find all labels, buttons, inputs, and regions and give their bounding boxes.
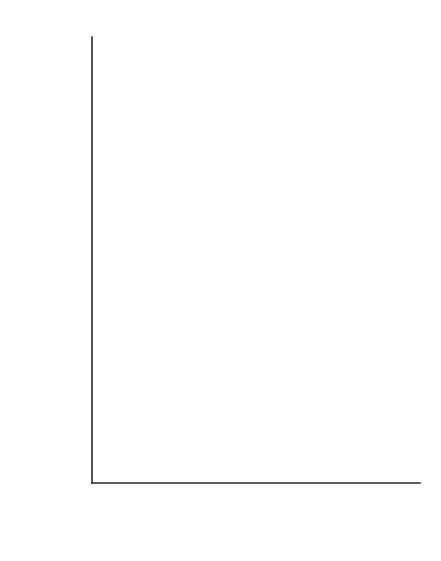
axes-group xyxy=(92,37,420,483)
chart-figure xyxy=(0,0,441,561)
cumulative-probability-plot xyxy=(0,0,441,561)
